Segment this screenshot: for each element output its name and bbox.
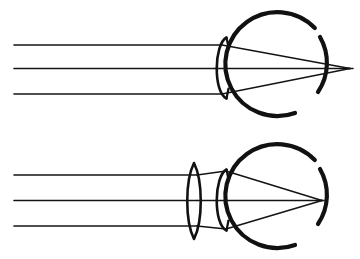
refracted-ray-lower [222, 69, 350, 95]
refracted-ray-lower [226, 201, 322, 230]
eyeball-outline-gap-arc [318, 169, 327, 224]
refracted-ray-upper [222, 45, 350, 69]
eyeball-outline [225, 12, 314, 116]
ray-diagram-canvas [0, 0, 360, 259]
uncorrected-eye-panel [14, 12, 353, 116]
corrected-eye-panel [14, 144, 327, 248]
optics-diagram [0, 0, 360, 259]
eyeball-outline [225, 144, 314, 248]
refracted-ray-upper [226, 171, 322, 201]
